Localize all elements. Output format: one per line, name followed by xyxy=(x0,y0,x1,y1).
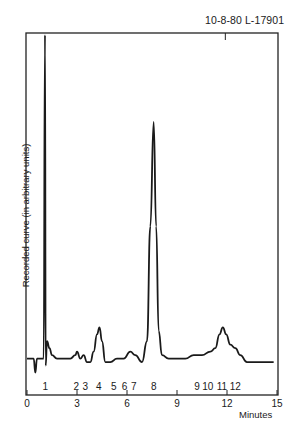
x-tick-label: 3 xyxy=(74,398,80,409)
peak-label: 11 xyxy=(217,381,228,392)
peak-label: 6 xyxy=(122,381,128,392)
peak-label: 9 xyxy=(194,381,200,392)
peak-label: 12 xyxy=(230,381,242,392)
peak-label: 7 xyxy=(131,381,137,392)
plot-area: 03691215123456789101112 xyxy=(0,0,295,431)
plot-frame xyxy=(26,33,278,395)
peak-label: 4 xyxy=(96,381,102,392)
peak-label: 8 xyxy=(151,381,157,392)
peak-label: 5 xyxy=(111,381,117,392)
peak-label: 2 xyxy=(73,381,79,392)
x-tick-label: 9 xyxy=(174,398,180,409)
peak-label: 1 xyxy=(43,381,49,392)
chromatogram-curve xyxy=(27,35,274,373)
x-tick-label: 15 xyxy=(271,398,283,409)
peak-label: 3 xyxy=(83,381,89,392)
peak-label: 10 xyxy=(202,381,214,392)
x-tick-label: 0 xyxy=(24,398,30,409)
x-tick-label: 6 xyxy=(124,398,130,409)
x-tick-label: 12 xyxy=(221,398,233,409)
